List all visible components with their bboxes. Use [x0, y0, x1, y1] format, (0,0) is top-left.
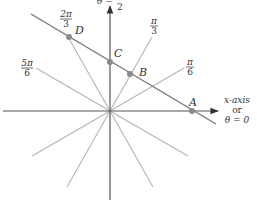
point-d-label: D	[74, 24, 84, 37]
ray-11pi-6	[110, 111, 188, 156]
angle-label-2pi-3: 2π 3	[59, 9, 73, 29]
angle-label-5pi-6: 5π 6	[21, 58, 34, 78]
svg-text:θ = 0: θ = 0	[225, 115, 250, 125]
angle-label-pi-3: π 3	[150, 16, 158, 36]
point-a-label: A	[188, 96, 197, 109]
svg-text:π: π	[186, 57, 194, 67]
y-axis-label-prefix: θ =	[97, 0, 113, 6]
point-d	[66, 34, 72, 40]
point-b-label: B	[138, 66, 147, 79]
svg-text:3: 3	[63, 19, 69, 29]
angle-label-pi-6: π 6	[186, 57, 194, 77]
polar-diagram: A B C D θ = 2 π 3 π 6 2π 3 5π 6 x-axis o…	[0, 0, 257, 200]
ray-7pi-6	[32, 111, 110, 156]
ray-5pi-6	[36, 68, 110, 111]
svg-text:π: π	[150, 16, 158, 26]
point-c	[107, 59, 113, 65]
svg-text:x-axis: x-axis	[224, 95, 250, 105]
svg-text:3: 3	[151, 26, 157, 36]
svg-text:or: or	[232, 105, 242, 115]
y-axis-label-den: 2	[117, 2, 123, 12]
point-c-label: C	[114, 47, 123, 60]
svg-text:6: 6	[187, 67, 193, 77]
svg-text:6: 6	[24, 68, 30, 78]
svg-text:5π: 5π	[21, 58, 34, 68]
ray-5pi-3	[110, 111, 153, 187]
point-b	[127, 71, 133, 77]
x-axis-label: x-axis or θ = 0	[224, 95, 250, 125]
svg-text:2π: 2π	[59, 9, 73, 19]
ray-4pi-3	[67, 111, 110, 187]
